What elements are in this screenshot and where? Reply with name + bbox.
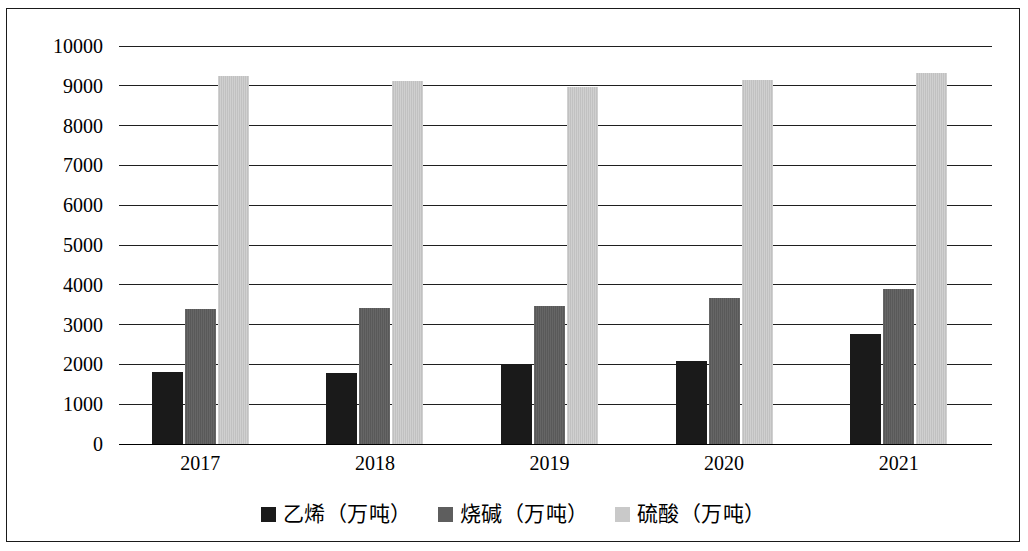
bar — [709, 298, 740, 444]
x-tick-label: 2018 — [355, 453, 395, 473]
legend-item[interactable]: 硫酸（万吨） — [615, 504, 766, 525]
x-tick-label: 2020 — [704, 453, 744, 473]
bar — [676, 361, 707, 444]
y-tick-label: 10000 — [53, 36, 103, 56]
legend-swatch-caustic-soda — [438, 507, 453, 522]
chart-frame: 0100020003000400050006000700080009000100… — [6, 8, 1020, 542]
bar — [185, 309, 216, 444]
bar — [359, 308, 390, 445]
bar — [534, 306, 565, 444]
bar-group — [152, 46, 249, 444]
y-tick-label: 2000 — [63, 354, 103, 374]
x-tick-label: 2021 — [879, 453, 919, 473]
legend-item[interactable]: 烧碱（万吨） — [438, 504, 589, 525]
bar — [326, 373, 357, 444]
y-tick-label: 8000 — [63, 116, 103, 136]
bar-group — [326, 46, 423, 444]
bar-group — [501, 46, 598, 444]
x-tick-label: 2017 — [180, 453, 220, 473]
legend-label: 硫酸（万吨） — [637, 504, 766, 525]
y-tick-label: 4000 — [63, 275, 103, 295]
legend-swatch-ethylene — [261, 507, 276, 522]
y-axis-tick-labels: 0100020003000400050006000700080009000100… — [7, 46, 111, 444]
bar — [850, 334, 881, 444]
bar — [392, 81, 423, 444]
y-tick-label: 1000 — [63, 394, 103, 414]
bar — [501, 364, 532, 444]
y-tick-label: 3000 — [63, 315, 103, 335]
legend-label: 乙烯（万吨） — [283, 504, 412, 525]
chart-legend: 乙烯（万吨）烧碱（万吨）硫酸（万吨） — [7, 504, 1019, 525]
y-tick-label: 9000 — [63, 76, 103, 96]
legend-label: 烧碱（万吨） — [460, 504, 589, 525]
legend-item[interactable]: 乙烯（万吨） — [261, 504, 412, 525]
bar — [883, 289, 914, 444]
plot-area — [119, 46, 992, 444]
x-tick-label: 2019 — [530, 453, 570, 473]
y-tick-label: 5000 — [63, 235, 103, 255]
x-axis-tick-labels: 20172018201920202021 — [119, 453, 992, 483]
y-tick-label: 6000 — [63, 195, 103, 215]
y-tick-label: 7000 — [63, 155, 103, 175]
bar — [567, 87, 598, 444]
bar — [916, 73, 947, 444]
bar — [152, 372, 183, 444]
bar-group — [850, 46, 947, 444]
bar-group — [676, 46, 773, 444]
bar — [742, 80, 773, 444]
bar — [218, 76, 249, 444]
legend-swatch-sulfuric-acid — [615, 507, 630, 522]
y-tick-label: 0 — [93, 434, 103, 454]
